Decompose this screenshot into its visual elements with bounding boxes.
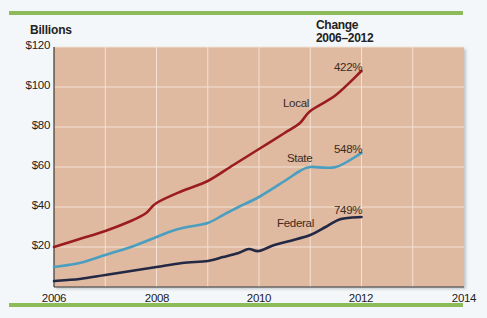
local-change-label: 422% [334, 61, 362, 73]
federal-series-label: Federal [277, 217, 314, 229]
chart-plot: Local State Federal 422% 548% 749% [0, 0, 487, 318]
state-change-label: 548% [334, 143, 362, 155]
local-series-label: Local [283, 97, 309, 109]
federal-change-label: 749% [334, 204, 362, 216]
bottom-rule [9, 303, 463, 307]
state-series-label: State [287, 152, 312, 164]
